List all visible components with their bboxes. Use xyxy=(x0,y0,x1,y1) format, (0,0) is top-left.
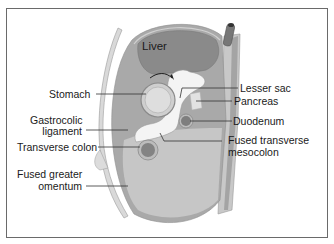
label-fused-greater-line2: omentum xyxy=(17,181,82,192)
label-liver: Liver xyxy=(142,41,167,52)
label-fused-greater-line1: Fused greater xyxy=(17,169,82,180)
label-lesser-sac: Lesser sac xyxy=(240,83,291,94)
label-stomach: Stomach xyxy=(49,89,90,100)
duodenum-lumen xyxy=(181,116,191,126)
label-duodenum: Duodenum xyxy=(233,116,284,127)
stomach-lumen xyxy=(145,87,171,113)
vessel-lumen xyxy=(228,23,234,27)
label-fused-transverse-line1: Fused transverse xyxy=(228,135,309,146)
label-transverse-colon: Transverse colon xyxy=(17,142,97,153)
label-gastrocolic-line2: ligament xyxy=(30,126,82,137)
label-pancreas: Pancreas xyxy=(234,96,278,107)
transverse-colon-lumen xyxy=(141,143,155,157)
liver xyxy=(138,31,219,75)
label-fused-transverse-line2: mesocolon xyxy=(228,147,279,158)
